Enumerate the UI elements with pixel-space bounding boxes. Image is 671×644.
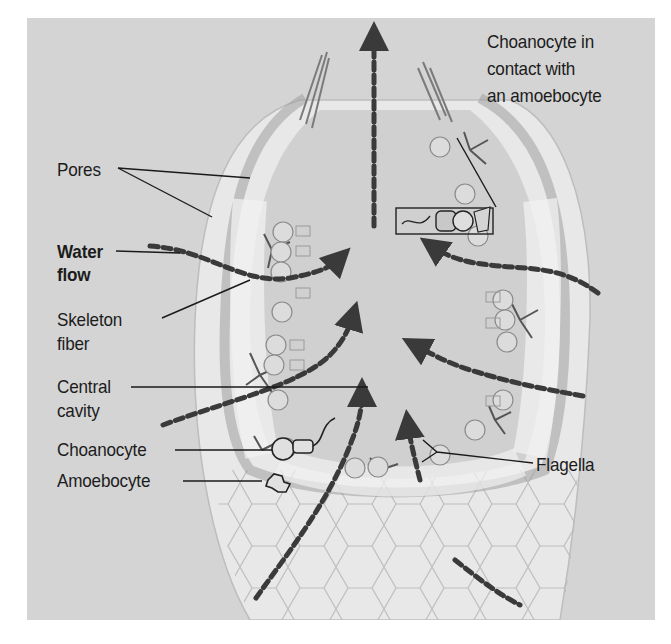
diagram-panel: Pores Water flow Skeleton fiber Central … <box>27 18 655 620</box>
label-choanocyte-contact-line2: contact with <box>487 57 575 80</box>
label-choanocyte-contact-line3: an amoebocyte <box>487 84 602 107</box>
label-choanocyte: Choanocyte <box>57 438 146 461</box>
label-skeleton-fiber-line2: fiber <box>57 332 89 355</box>
sponge-body <box>194 52 590 620</box>
label-amoebocyte: Amoebocyte <box>57 469 150 492</box>
label-pores: Pores <box>57 158 101 181</box>
label-central-cavity-line2: cavity <box>57 399 100 422</box>
label-skeleton-fiber-line1: Skeleton <box>57 308 122 331</box>
label-central-cavity-line1: Central <box>57 375 111 398</box>
label-water-flow-line1: Water <box>57 240 103 263</box>
label-choanocyte-contact-line1: Choanocyte in <box>487 30 594 53</box>
label-water-flow-line2: flow <box>57 263 90 286</box>
label-flagella: Flagella <box>536 453 594 476</box>
